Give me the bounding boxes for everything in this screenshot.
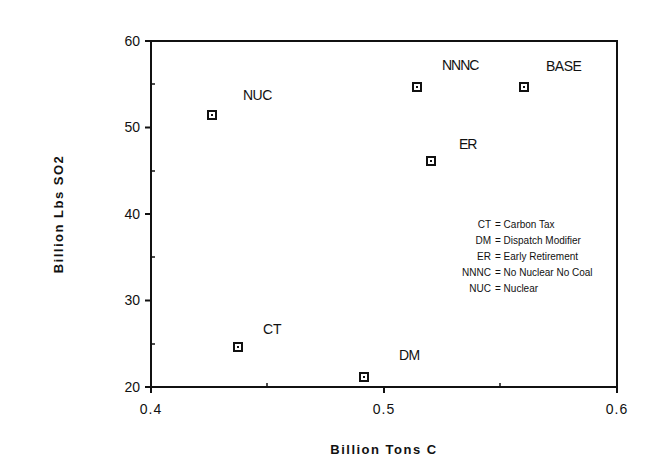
svg-text:= Early Retirement: = Early Retirement — [495, 251, 578, 262]
svg-text:= Dispatch Modifier: = Dispatch Modifier — [495, 235, 582, 246]
y-tick-30: 30 — [124, 292, 140, 308]
y-tick-20: 20 — [124, 379, 140, 395]
label-dm: DM — [399, 347, 420, 363]
plot-frame — [151, 41, 617, 387]
x-tick-0.5: 0.5 — [373, 401, 395, 417]
point-ct — [234, 343, 242, 351]
label-base: BASE — [546, 58, 582, 74]
svg-text:CT: CT — [478, 219, 491, 230]
label-ct: CT — [263, 321, 282, 337]
svg-text:NNNC: NNNC — [462, 267, 491, 278]
point-er — [427, 157, 435, 165]
svg-text:ER: ER — [477, 251, 491, 262]
x-axis-title: Billion Tons C — [330, 442, 437, 457]
label-nnnc: NNNC — [442, 57, 479, 73]
y-axis-title: Billion Lbs SO2 — [51, 155, 66, 274]
point-base — [520, 83, 528, 91]
x-axis: 0.4 0.5 0.6 — [140, 383, 628, 417]
svg-text:= Nuclear: = Nuclear — [495, 283, 539, 294]
svg-text:DM: DM — [475, 235, 491, 246]
y-tick-60: 60 — [124, 33, 140, 49]
legend: CT = Carbon Tax DM = Dispatch Modifier E… — [462, 219, 592, 294]
point-nuc — [208, 111, 216, 119]
y-tick-40: 40 — [124, 206, 140, 222]
point-dm — [360, 373, 368, 381]
point-nnnc — [413, 83, 421, 91]
x-tick-0.4: 0.4 — [140, 401, 162, 417]
y-tick-50: 50 — [124, 119, 140, 135]
label-nuc: NUC — [243, 87, 272, 103]
x-tick-0.6: 0.6 — [606, 401, 628, 417]
label-er: ER — [459, 136, 477, 152]
svg-text:NUC: NUC — [469, 283, 491, 294]
data-points — [208, 83, 528, 381]
svg-text:= No Nuclear No Coal: = No Nuclear No Coal — [495, 267, 593, 278]
point-labels: NUC NNNC BASE ER CT DM — [243, 57, 582, 363]
scatter-chart: 60 50 40 30 20 0.4 0.5 0.6 Billion Tons … — [0, 0, 657, 475]
svg-text:= Carbon Tax: = Carbon Tax — [495, 219, 555, 230]
